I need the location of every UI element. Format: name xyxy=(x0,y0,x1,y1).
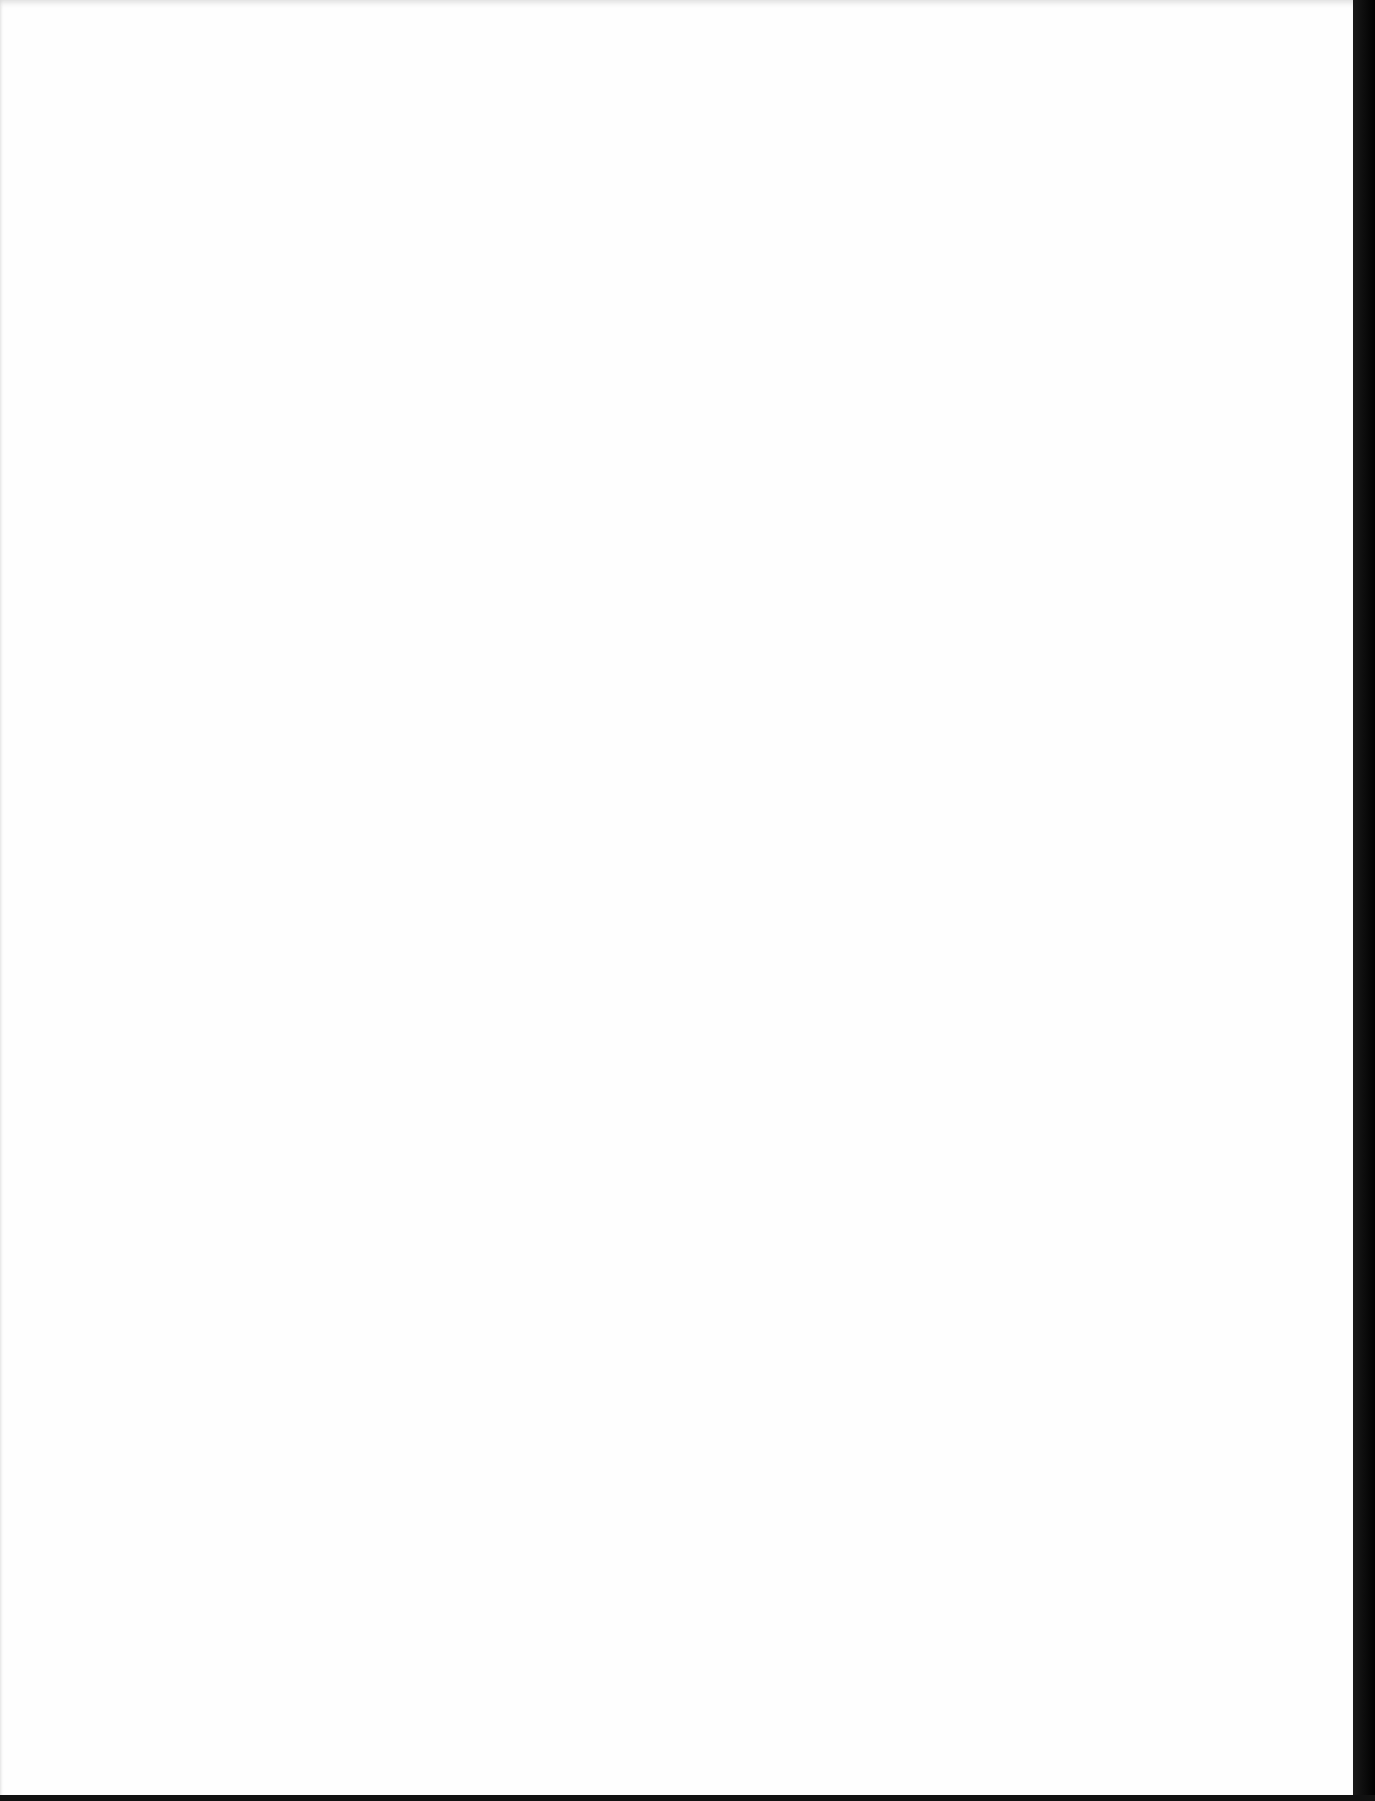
scan-right-border xyxy=(1353,0,1375,1801)
scan-bottom-border xyxy=(0,1795,1375,1801)
blank-scanned-page xyxy=(0,0,1353,1795)
